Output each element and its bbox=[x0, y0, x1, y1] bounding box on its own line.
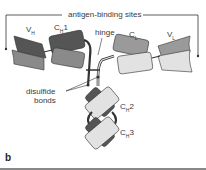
ch1-label: CH1 bbox=[54, 23, 68, 36]
ch2-label: CH2 bbox=[120, 102, 134, 115]
panel-label: b bbox=[5, 153, 11, 162]
cl-label: CL bbox=[129, 30, 138, 43]
vl-label: VL bbox=[167, 30, 175, 43]
ch3-domain bbox=[84, 116, 120, 150]
disulfide-bonds-label-line1: disulfide bbox=[26, 87, 55, 96]
hinge-label: hinge bbox=[95, 28, 115, 37]
hinge-region bbox=[84, 40, 114, 86]
ch3-label: CH3 bbox=[120, 128, 134, 141]
antibody-diagram: antigen-binding sites VH CH1 hinge CL VL… bbox=[0, 0, 206, 170]
antigen-binding-sites-label: antigen-binding sites bbox=[66, 10, 143, 19]
vh-label: VH bbox=[26, 25, 35, 38]
disulfide-bonds-label-line2: bonds bbox=[34, 96, 56, 105]
vh-domain bbox=[12, 36, 46, 70]
